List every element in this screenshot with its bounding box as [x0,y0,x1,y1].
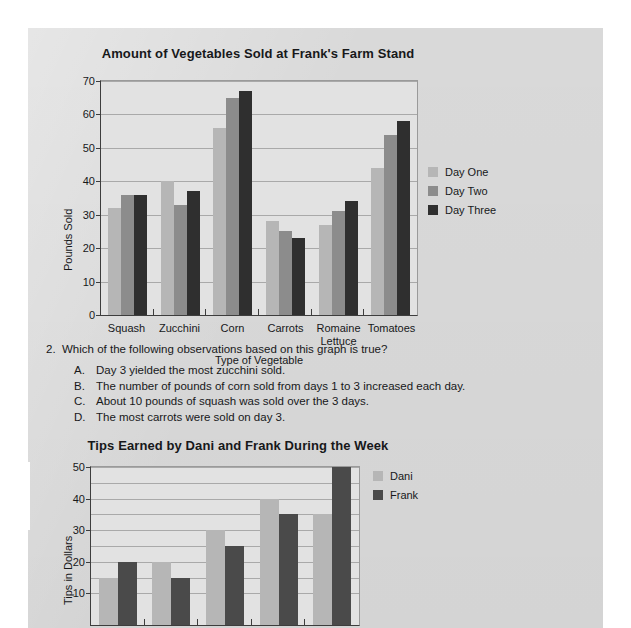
bar [345,201,358,315]
chart-vegetables-sold: Amount of Vegetables Sold at Frank's Far… [28,36,548,336]
y-tick-label: 20 [83,242,95,254]
legend-label: Frank [390,489,418,501]
plot-area: 70 60 50 40 30 20 10 0 [100,80,418,316]
answer-choice[interactable]: D.The most carrots were sold on day 3. [74,410,516,426]
plot-area: 50 40 30 20 10 [90,466,360,626]
legend-item: Day Two [428,185,496,197]
y-tick-label: 30 [83,209,95,221]
bar-group [101,81,154,315]
legend-item: Day Three [428,204,496,216]
y-tick-label: 40 [83,175,95,187]
choice-text: The most carrots were sold on day 3. [96,410,285,426]
question-number: 2. [46,342,62,357]
bar [187,191,200,315]
bar [371,168,384,315]
bar [171,578,190,625]
bar [279,514,298,625]
bar [332,211,345,315]
bar-group [154,81,207,315]
y-tick-label: 60 [83,108,95,120]
chart-title: Amount of Vegetables Sold at Frank's Far… [48,46,468,61]
legend-item: Day One [428,166,496,178]
bar [225,546,244,625]
legend-item: Dani [373,470,418,482]
legend-label: Dani [390,470,413,482]
legend-label: Day One [445,166,488,178]
bar-group [198,467,252,625]
legend-swatch [373,490,383,500]
choice-text: About 10 pounds of squash was sold over … [96,394,369,410]
legend-swatch [428,167,438,177]
legend-swatch [428,205,438,215]
legend-swatch [428,186,438,196]
bar [174,205,187,315]
question-block: 2. Which of the following observations b… [46,342,516,425]
bar [266,221,279,315]
answer-choice[interactable]: C.About 10 pounds of squash was sold ove… [74,394,516,410]
bar-group [145,467,199,625]
bar-group [312,81,365,315]
bar [260,499,279,625]
y-axis-title: Pounds Sold [62,209,74,271]
bar-group [364,81,417,315]
choice-letter: D. [74,410,96,426]
legend-label: Day Two [445,185,488,197]
bar [118,562,137,625]
answer-choice[interactable]: B.The number of pounds of corn sold from… [74,379,516,395]
bar [152,562,171,625]
bar-groups [91,467,359,625]
bar [121,195,134,315]
bar-group [91,467,145,625]
y-tick-label: 10 [73,587,85,599]
bar [239,91,252,315]
legend-item: Frank [373,489,418,501]
y-tick-label: 50 [83,142,95,154]
answer-choices: A.Day 3 yielded the most zucchini sold.B… [74,363,516,425]
bar [161,181,174,315]
bar-group [305,467,359,625]
choice-text: The number of pounds of corn sold from d… [96,379,465,395]
choice-letter: C. [74,394,96,410]
bar [292,238,305,315]
bar [313,514,332,625]
answer-choice[interactable]: A.Day 3 yielded the most zucchini sold. [74,363,516,379]
scan-edge-left [0,462,30,530]
legend-label: Day Three [445,204,496,216]
choice-letter: B. [74,379,96,395]
bar [206,530,225,625]
legend-swatch [373,471,383,481]
chart-legend: Day OneDay TwoDay Three [428,166,496,223]
chart-tips-earned: Tips Earned by Dani and Frank During the… [28,430,548,616]
bar [134,195,147,315]
chart-title: Tips Earned by Dani and Frank During the… [38,438,438,453]
bar-groups [101,81,417,315]
y-tick-label: 0 [89,309,95,321]
bar [108,208,121,315]
bar [99,578,118,625]
question-stem: 2. Which of the following observations b… [46,342,516,357]
choice-letter: A. [74,363,96,379]
bar [332,467,351,625]
bar [319,225,332,315]
bar-group [206,81,259,315]
bar [213,128,226,315]
y-tick-label: 50 [73,461,85,473]
bar-group [259,81,312,315]
chart-legend: DaniFrank [373,470,418,508]
bar [279,231,292,315]
bar-group [252,467,306,625]
bar [384,135,397,316]
bar [226,98,239,315]
question-text: Which of the following observations base… [62,342,387,357]
y-tick-label: 30 [73,524,85,536]
scan-edge-right [603,0,631,616]
y-tick-label: 20 [73,556,85,568]
y-tick-label: 70 [83,75,95,87]
y-tick-label: 10 [83,276,95,288]
bar [397,121,410,315]
choice-text: Day 3 yielded the most zucchini sold. [96,363,285,379]
y-tick-label: 40 [73,493,85,505]
